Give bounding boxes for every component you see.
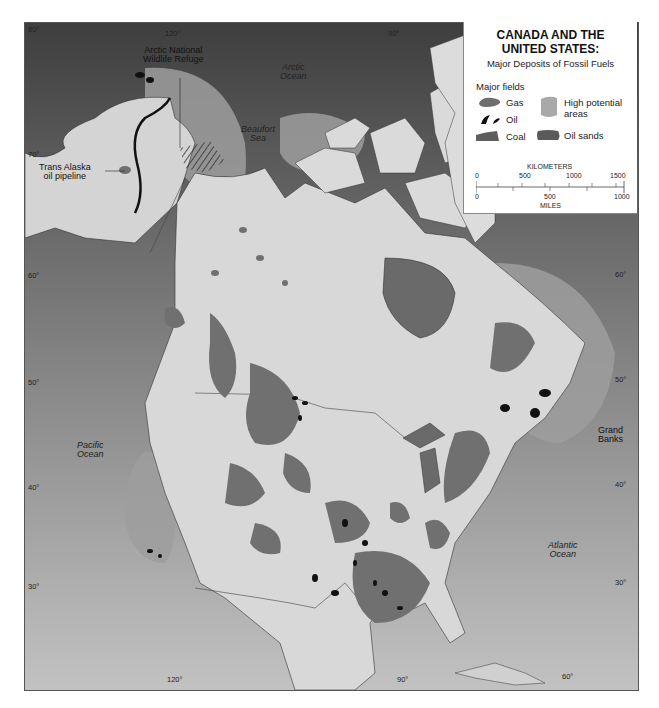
scale-mi-tick-500: 500 [544,193,556,200]
coal-swatch-icon [475,129,501,142]
legend-coal-label: Coal [506,131,526,142]
map-title: CANADA AND THEUNITED STATES: [464,28,637,56]
lat-label-50: 50° [28,379,39,387]
oil-sands-swatch-icon [536,128,562,142]
scale-mi-tick-0: 0 [475,193,479,200]
scale-km-tick-0: 0 [475,172,479,179]
lat-label-right-50: 50° [615,376,626,384]
map-legend: CANADA AND THEUNITED STATES: Major Depos… [463,22,637,214]
label-beaufort-sea: BeaufortSea [241,125,275,144]
scale-km-tick-1000: 1000 [566,172,582,179]
lat-label-70: 70° [28,151,39,159]
scale-km-tick-1500: 1500 [610,172,626,179]
lon-label-top-90: 90° [388,30,399,38]
lon-label-bottom-120: 120° [167,676,183,684]
label-trans-alaska-pipeline: Trans Alaskaoil pipeline [39,163,91,182]
label-pacific-ocean: PacificOcean [77,441,104,460]
lat-label-60: 60° [28,272,39,280]
lon-label-bottom-60: 60° [562,673,573,681]
oil-swatch-icon [480,112,502,126]
gas-swatch-icon [478,96,502,108]
lon-label-bottom-90: 90° [397,676,408,684]
scale-ruler [476,181,626,193]
lat-label-right-60: 60° [615,271,626,279]
map-subtitle: Major Deposits of Fossil Fuels [464,58,637,69]
scale-km-tick-500: 500 [519,172,531,179]
legend-heading: Major fields [476,81,525,92]
lat-label-80: 80° [28,26,39,34]
lon-label-top-120: 120° [165,30,181,38]
scale-mi-tick-1000: 1000 [614,193,630,200]
label-atlantic-ocean: AtlanticOcean [548,541,578,560]
legend-oil-sands-label: Oil sands [564,130,604,141]
high-potential-swatch-icon [539,95,559,119]
scale-km-label: KILOMETERS [527,163,572,170]
lat-label-40: 40° [28,484,39,492]
legend-gas-label: Gas [506,97,523,108]
label-grand-banks: GrandBanks [598,426,623,445]
scale-bar: KILOMETERS 0 500 1000 1500 0 500 1000 MI… [474,175,629,213]
lat-label-30: 30° [28,583,39,591]
label-arctic-national-wildlife-refuge: Arctic NationalWildlife Refuge [143,46,204,65]
legend-oil-label: Oil [506,114,518,125]
lat-label-right-40: 40° [615,481,626,489]
label-arctic-ocean: ArcticOcean [280,63,307,82]
legend-high-potential-label: High potentialareas [564,97,622,119]
scale-mi-label: MILES [540,202,561,209]
lat-label-right-30: 30° [615,579,626,587]
